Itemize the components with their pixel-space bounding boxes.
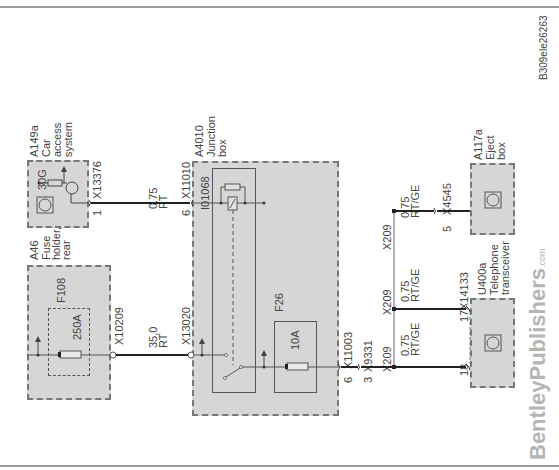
publisher-watermark: BentleyPublishers.com xyxy=(525,249,551,460)
watermark-brand: BentleyPublishers xyxy=(525,268,550,460)
fuse-250a-icon xyxy=(60,351,81,358)
fuse-10a-icon xyxy=(287,363,308,370)
watermark-suffix: .com xyxy=(537,249,547,269)
switch-icon xyxy=(226,368,240,377)
transistor-icon xyxy=(66,182,78,194)
wiring-schematic xyxy=(0,0,559,470)
